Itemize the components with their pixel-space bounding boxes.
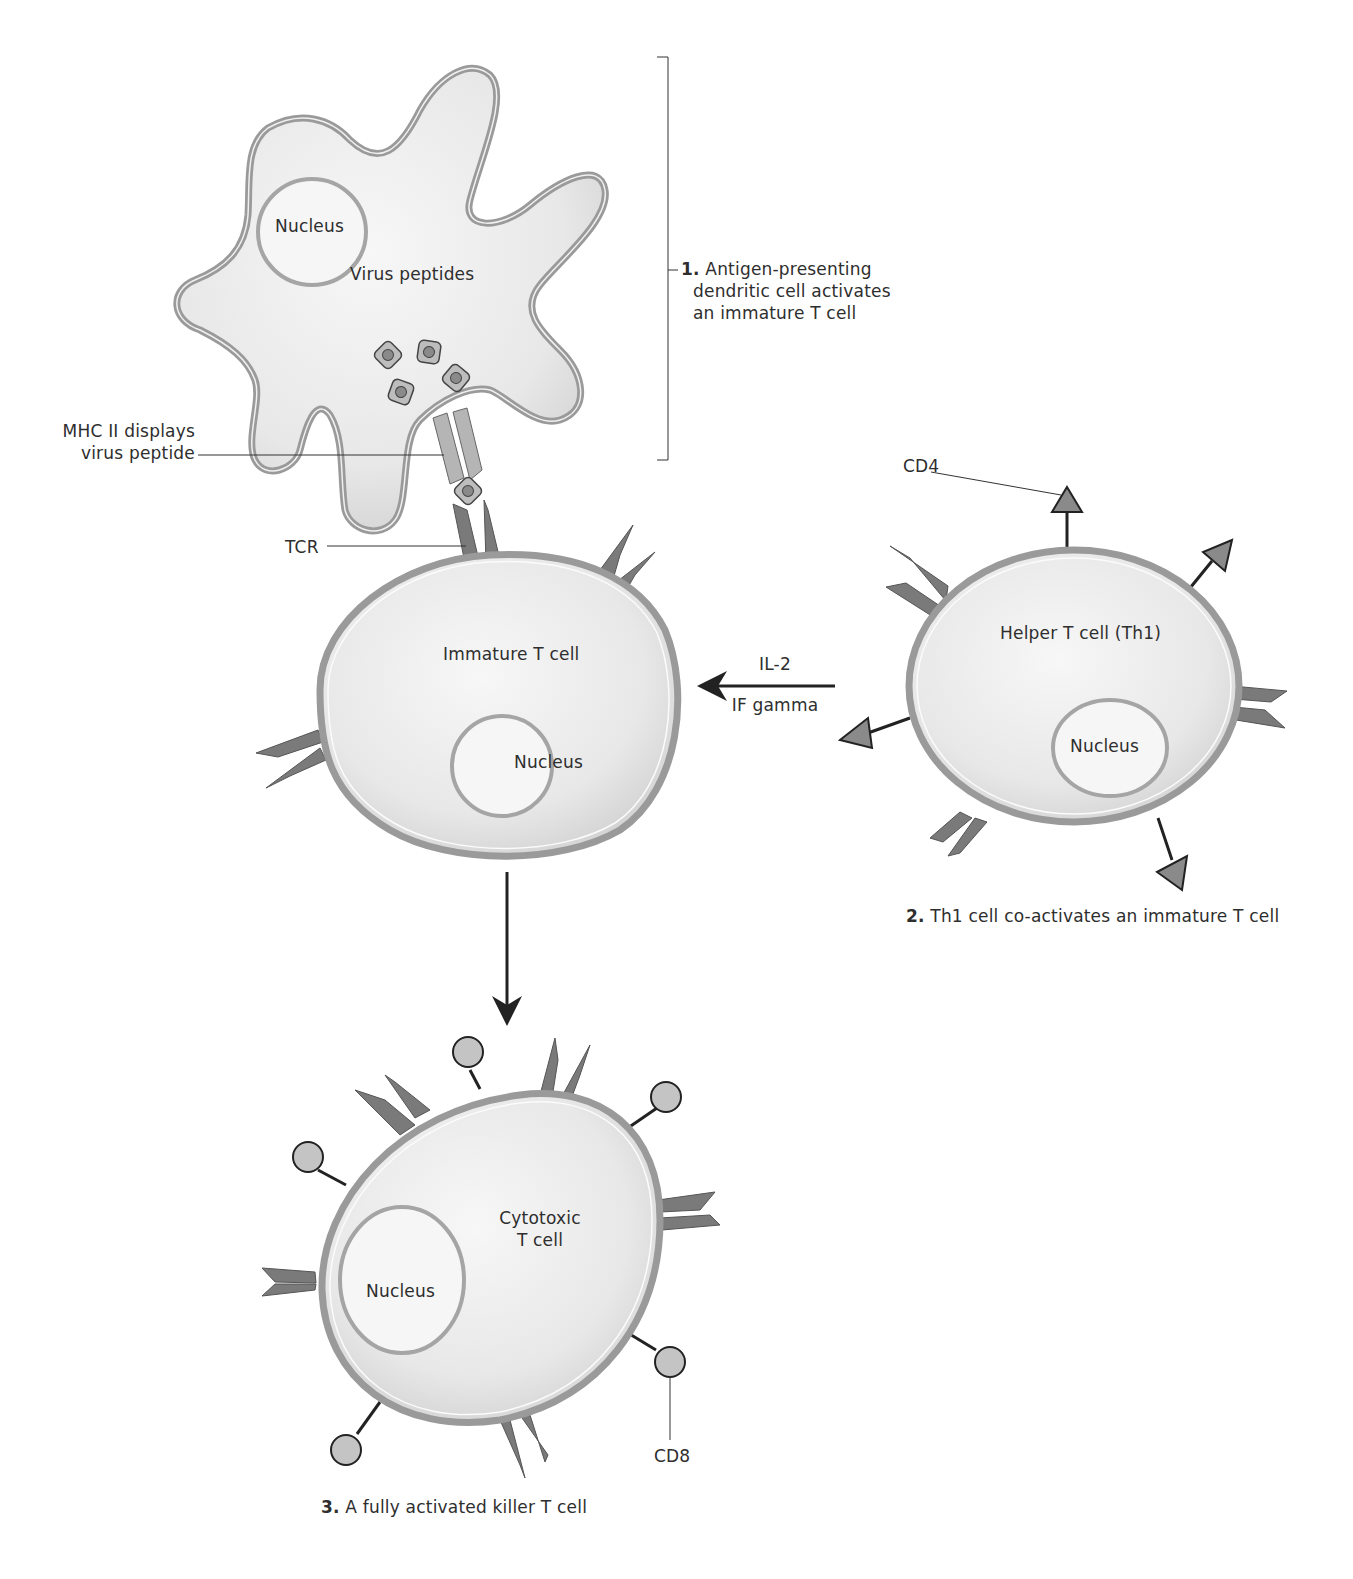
step-2-caption: 2. Th1 cell co-activates an immature T c… (906, 905, 1279, 927)
cytotoxic-nucleus-label: Nucleus (366, 1280, 435, 1302)
virus-peptides-label: Virus peptides (350, 263, 474, 285)
step-1-caption: 1. Antigen-presenting dendritic cell act… (681, 258, 891, 324)
step-2-number: 2. (906, 906, 925, 926)
step-1-number: 1. (681, 259, 700, 279)
cd4-receptor (1052, 487, 1082, 512)
helper-cell-label: Helper T cell (Th1) (1000, 622, 1161, 644)
if-gamma-label: IF gamma (730, 694, 820, 716)
cd8-receptor (655, 1347, 685, 1377)
mhc-ii-callout: MHC II displays virus peptide (40, 420, 195, 464)
immature-t-cell (256, 525, 678, 856)
helper-nucleus-label: Nucleus (1070, 735, 1139, 757)
diagram-canvas (0, 0, 1353, 1579)
dendritic-nucleus-label: Nucleus (275, 215, 344, 237)
cd8-callout: CD8 (654, 1445, 690, 1467)
immature-cell-label: Immature T cell (443, 643, 580, 665)
helper-t-cell (840, 487, 1287, 890)
mhc-tcr-complex (433, 408, 500, 568)
il2-label: IL-2 (730, 653, 820, 675)
step-3-caption: 3. A fully activated killer T cell (321, 1496, 587, 1518)
step-3-number: 3. (321, 1497, 340, 1517)
cytotoxic-cell-label: Cytotoxic T cell (480, 1207, 600, 1251)
tcr-callout: TCR (285, 536, 319, 558)
immature-nucleus-label: Nucleus (514, 751, 583, 773)
cytotoxic-t-cell (262, 1037, 720, 1478)
dendritic-cell (177, 68, 606, 531)
dendritic-cell-body (177, 68, 606, 531)
cd4-callout: CD4 (903, 455, 939, 477)
